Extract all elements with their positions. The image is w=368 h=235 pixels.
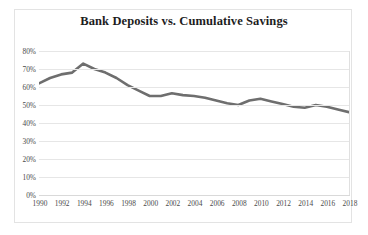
x-tick-label: 1998 (121, 199, 136, 208)
gridline (39, 159, 349, 160)
y-tick-label: 20% (2, 155, 36, 164)
x-tick-label: 1992 (55, 199, 70, 208)
gridline (39, 123, 349, 124)
y-tick-label: 30% (2, 137, 36, 146)
x-tick-label: 2016 (320, 199, 335, 208)
gridline (39, 177, 349, 178)
x-tick-label: 2018 (343, 199, 358, 208)
x-tick-label: 2000 (143, 199, 158, 208)
gridline (39, 69, 349, 70)
y-tick-label: 60% (2, 83, 36, 92)
y-tick-label: 70% (2, 65, 36, 74)
y-tick-label: 10% (2, 173, 36, 182)
gridline (39, 51, 349, 52)
y-axis-labels: 80%70%60%50%40%30%20%10%0% (0, 51, 36, 195)
chart-title: Bank Deposits vs. Cumulative Savings (0, 14, 368, 29)
y-tick-label: 0% (2, 191, 36, 200)
x-tick-label: 1990 (33, 199, 48, 208)
axis-right-line (349, 51, 350, 196)
x-axis-labels: 1990199219941996199820002002200420062008… (39, 199, 350, 211)
x-tick-label: 2008 (232, 199, 247, 208)
gridline (39, 141, 349, 142)
axis-bottom-line (39, 195, 350, 196)
x-tick-label: 2012 (276, 199, 291, 208)
y-tick-label: 50% (2, 101, 36, 110)
plot-area (39, 51, 349, 195)
gridline (39, 105, 349, 106)
y-tick-label: 40% (2, 119, 36, 128)
x-tick-label: 1996 (99, 199, 114, 208)
x-tick-label: 2004 (188, 199, 203, 208)
x-tick-label: 2010 (254, 199, 269, 208)
x-tick-label: 2002 (165, 199, 180, 208)
x-tick-label: 1994 (77, 199, 92, 208)
x-tick-label: 2006 (210, 199, 225, 208)
gridline (39, 87, 349, 88)
x-tick-label: 2014 (298, 199, 313, 208)
y-tick-label: 80% (2, 47, 36, 56)
